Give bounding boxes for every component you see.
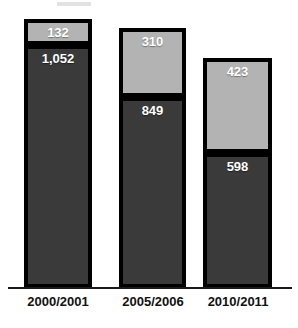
bar-segment-lower-2005-2006: 849 (119, 97, 186, 288)
bar-value-lower-2000-2001: 1,052 (28, 51, 88, 66)
stacked-bar-chart: 132 1,052 310 849 423 598 2000/2001 (0, 0, 298, 328)
x-axis-label-2005-2006: 2005/2006 (109, 294, 197, 310)
bar-group-2010-2011: 423 598 (203, 58, 272, 288)
x-axis-label-2010-2011: 2010/2011 (194, 294, 282, 310)
x-axis-line (8, 287, 292, 289)
bar-segment-upper-2000-2001: 132 (24, 19, 92, 45)
bar-group-2005-2006: 310 849 (119, 28, 186, 288)
bar-value-lower-2010-2011: 598 (207, 159, 268, 174)
bar-segment-upper-2005-2006: 310 (119, 28, 186, 97)
bar-group-2000-2001: 132 1,052 (24, 19, 92, 288)
plot-area: 132 1,052 310 849 423 598 (0, 0, 298, 288)
bar-value-upper-2000-2001: 132 (28, 25, 88, 40)
bar-segment-lower-2000-2001: 1,052 (24, 45, 92, 288)
bar-segment-upper-2010-2011: 423 (203, 58, 272, 153)
bar-value-lower-2005-2006: 849 (123, 103, 182, 118)
x-axis-label-2000-2001: 2000/2001 (14, 294, 102, 310)
bar-value-upper-2005-2006: 310 (123, 34, 182, 49)
bar-value-upper-2010-2011: 423 (207, 64, 268, 79)
bar-segment-lower-2010-2011: 598 (203, 153, 272, 288)
